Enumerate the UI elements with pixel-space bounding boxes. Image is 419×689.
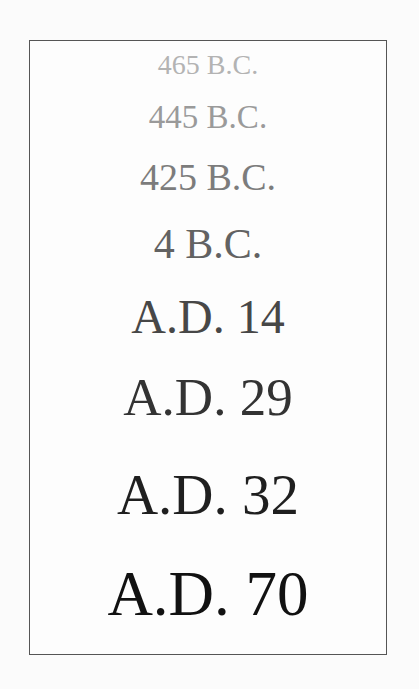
date-4-bc: 4 B.C. [30, 223, 386, 265]
date-ad-14: A.D. 14 [30, 293, 386, 341]
date-ad-29: A.D. 29 [30, 371, 386, 424]
date-ad-32: A.D. 32 [30, 466, 386, 523]
date-425-bc: 425 B.C. [30, 158, 386, 196]
date-ad-70: A.D. 70 [30, 563, 386, 626]
date-465-bc: 465 B.C. [30, 51, 386, 79]
timeline-frame: 465 B.C. 445 B.C. 425 B.C. 4 B.C. A.D. 1… [29, 40, 387, 655]
date-445-bc: 445 B.C. [30, 101, 386, 134]
